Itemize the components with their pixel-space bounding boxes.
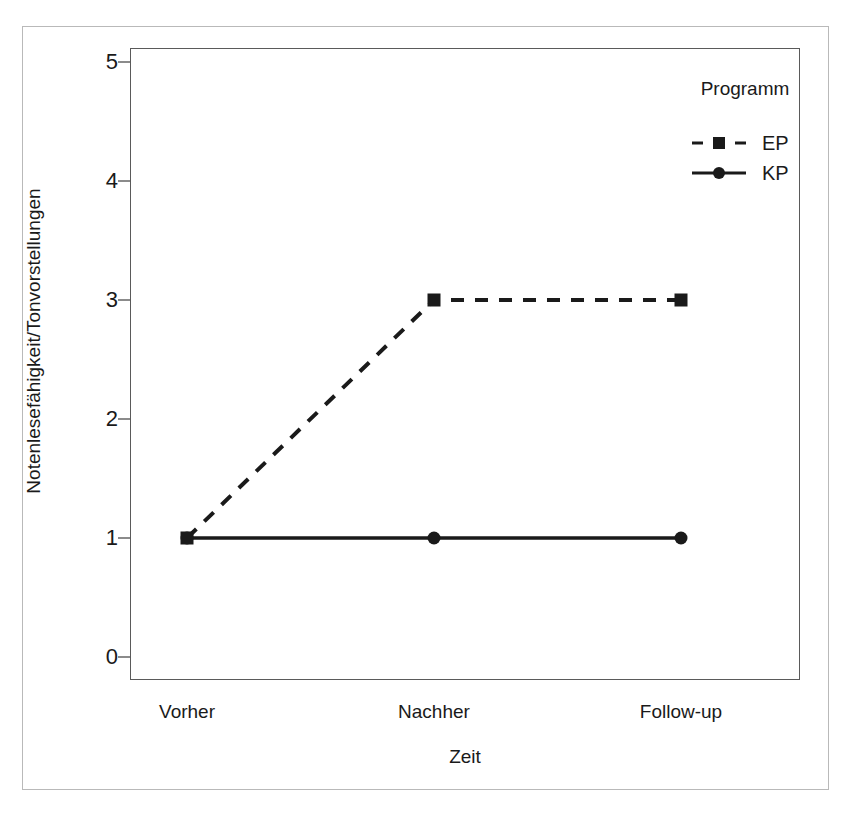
legend-key-kp	[690, 163, 750, 183]
legend: Programm EP KP	[690, 78, 800, 190]
y-tick-label-0: 0	[88, 646, 118, 668]
legend-label-kp: KP	[762, 163, 789, 183]
y-tick-label-2: 2	[88, 408, 118, 430]
legend-item-kp: KP	[690, 160, 800, 186]
legend-key-ep	[690, 133, 750, 153]
legend-label-ep: EP	[762, 133, 789, 153]
y-tick-label-3: 3	[88, 289, 118, 311]
legend-item-ep: EP	[690, 130, 800, 156]
y-tick-label-1: 1	[88, 527, 118, 549]
x-tick-label-vorher: Vorher	[159, 702, 215, 721]
y-axis-title-container: Notenlesefähigkeit/Tonvorstellungen	[0, 0, 60, 819]
x-axis-title: Zeit	[130, 746, 800, 768]
chart-page: Notenlesefähigkeit/Tonvorstellungen 5 4 …	[0, 0, 857, 819]
x-tick-label-nachher: Nachher	[398, 702, 470, 721]
y-axis-title: Notenlesefähigkeit/Tonvorstellungen	[23, 111, 45, 571]
legend-title: Programm	[690, 78, 800, 100]
y-tick-label-4: 4	[88, 170, 118, 192]
y-tick-label-5: 5	[88, 51, 118, 73]
x-tick-label-follow-up: Follow-up	[640, 702, 722, 721]
